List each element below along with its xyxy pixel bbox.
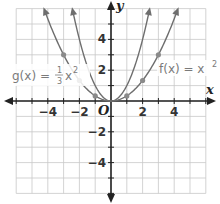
- x-axis-left-arrow: [4, 97, 13, 105]
- y-tick-label: 4: [98, 32, 106, 46]
- x-tick-label: 4: [170, 105, 178, 119]
- curve-arrow-icon: [40, 6, 49, 16]
- y-tick-label: −2: [88, 125, 106, 139]
- curve-arrow-icon: [69, 6, 78, 15]
- g-label-var: x: [65, 69, 72, 83]
- function-graph: −4−22442−2−4 x y O f(x) = x 2 g(x) = 1 3…: [0, 0, 220, 204]
- g-function-label: g(x) = 1 3 x 2: [10, 64, 90, 86]
- g-label-text: g(x) =: [12, 69, 50, 83]
- x-axis-right-arrow: [207, 97, 216, 105]
- origin-label: O: [98, 103, 110, 118]
- y-axis-bottom-arrow: [107, 194, 115, 203]
- y-tick-label: −4: [88, 156, 106, 170]
- g-label-frac-den: 3: [57, 77, 62, 86]
- y-tick-label: 2: [98, 63, 106, 77]
- axes: [4, 1, 216, 203]
- curve-arrow-icon: [145, 6, 154, 15]
- data-point: [124, 93, 129, 98]
- curve-arrow-icon: [172, 6, 181, 16]
- f-label-exponent: 2: [212, 60, 217, 69]
- x-tick-label: 2: [138, 105, 146, 119]
- f-label-text: f(x) = x: [159, 62, 204, 76]
- x-tick-label: −4: [39, 105, 57, 119]
- f-function-label: f(x) = x 2: [157, 60, 217, 76]
- y-axis-label: y: [115, 0, 125, 13]
- x-tick-label: −2: [70, 105, 88, 119]
- x-axis-label: x: [205, 82, 214, 97]
- g-label-exponent: 2: [73, 66, 78, 75]
- data-point: [61, 52, 66, 57]
- data-point: [93, 93, 98, 98]
- g-label-frac-num: 1: [57, 66, 62, 75]
- data-point: [140, 78, 145, 83]
- data-point: [156, 52, 161, 57]
